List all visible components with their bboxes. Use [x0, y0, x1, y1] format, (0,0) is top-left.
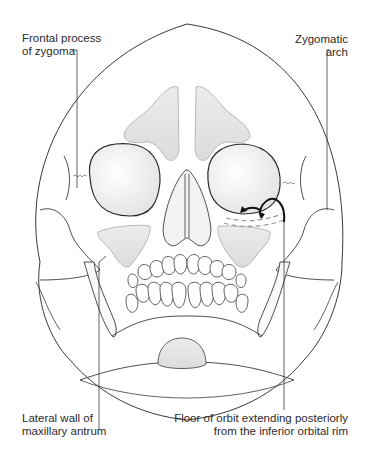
zygoma-suture-right: [283, 182, 295, 184]
label-orbit-floor: Floor of orbit extending posteriorly fro…: [174, 412, 348, 438]
maxillary-sinus-right: [218, 226, 270, 267]
nasal-cavity: [163, 170, 211, 246]
ramus-right: [258, 262, 290, 337]
label-frontal-process: Frontal process of zygoma: [22, 32, 101, 58]
ramus-left: [84, 262, 116, 337]
label-lateral-wall: Lateral wall of maxillary antrum: [22, 412, 106, 438]
lateral-orbit-right: [301, 156, 307, 200]
leader-frontal-process: [72, 50, 77, 188]
chin-sinus: [158, 338, 206, 369]
mandible: [112, 316, 262, 336]
orbit-left: [89, 144, 160, 216]
maxillary-sinus-left: [98, 225, 150, 267]
leader-lateral-wall: [99, 256, 106, 430]
orbit-floor-dash: [226, 214, 282, 221]
leader-zygomatic-arch: [327, 50, 330, 210]
lateral-orbit-left: [64, 156, 70, 200]
label-zygomatic-arch: Zygomatic arch: [295, 33, 348, 59]
teeth: [126, 255, 248, 313]
orbit-right: [208, 144, 280, 214]
zygoma-suture-left: [73, 175, 87, 177]
skull-diagram: [0, 0, 374, 472]
